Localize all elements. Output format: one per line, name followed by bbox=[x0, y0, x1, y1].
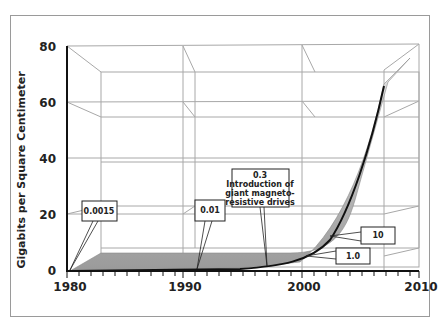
svg-text:giant magneto-: giant magneto- bbox=[225, 189, 294, 198]
x-tick-2000: 2000 bbox=[287, 280, 320, 294]
data-band bbox=[70, 58, 410, 271]
callout-0.3: 0.3 Introduction of giant magneto- resis… bbox=[225, 169, 295, 266]
chart-svg: 80 60 40 20 0 1980 1990 2000 2010 Gigabi… bbox=[0, 0, 445, 329]
x-tick-1990: 1990 bbox=[168, 280, 201, 294]
y-tick-20: 20 bbox=[39, 208, 56, 222]
svg-text:0.3: 0.3 bbox=[253, 171, 267, 180]
x-ticks bbox=[67, 271, 419, 278]
x-tick-1980: 1980 bbox=[53, 280, 86, 294]
y-tick-40: 40 bbox=[39, 152, 56, 166]
svg-text:10: 10 bbox=[372, 231, 384, 240]
callout-1.0: 1.0 bbox=[306, 248, 370, 264]
x-tick-2010: 2010 bbox=[404, 280, 437, 294]
y-tick-0: 0 bbox=[48, 264, 56, 278]
svg-text:Introduction of: Introduction of bbox=[226, 180, 294, 189]
svg-text:resistive drives: resistive drives bbox=[225, 198, 295, 207]
svg-text:0.01: 0.01 bbox=[200, 206, 220, 215]
y-tick-80: 80 bbox=[39, 40, 56, 54]
svg-text:1.0: 1.0 bbox=[346, 252, 361, 261]
data-line bbox=[70, 86, 384, 271]
y-tick-60: 60 bbox=[39, 96, 56, 110]
y-axis-title: Gigabits per Square Centimeter bbox=[15, 71, 28, 269]
svg-text:0.0015: 0.0015 bbox=[84, 207, 115, 216]
